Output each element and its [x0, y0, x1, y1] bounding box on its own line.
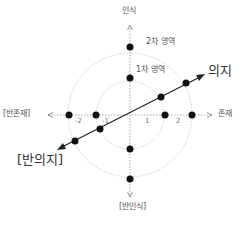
region-label-inner: 1차 영역 [136, 66, 165, 74]
axis-label-will: 의지 [208, 64, 232, 77]
dot-top-outer [127, 44, 134, 51]
tick-neg2: -2 [75, 118, 82, 125]
tick-pos1: 1 [145, 118, 149, 125]
dot-bottom-inner [127, 146, 134, 153]
axis-label-top: 인식 [122, 7, 136, 15]
dot-will-outer [183, 80, 190, 87]
arrow-antiwill-icon [57, 143, 66, 150]
dot-bottom-outer [127, 176, 134, 183]
dot-top-inner [127, 75, 134, 82]
axis-label-right: 존재 [218, 110, 232, 118]
dot-left-inner [93, 112, 100, 119]
arrow-will-icon [196, 74, 205, 81]
dot-left-outer [66, 112, 73, 119]
dot-will-inner [158, 94, 165, 101]
dot-antiwill-outer [72, 138, 79, 145]
axis-label-bottom: [반인식] [119, 203, 146, 211]
will-axis [60, 76, 202, 148]
tick-neg1: -1 [102, 118, 109, 125]
dot-right-inner [162, 112, 169, 119]
tick-pos2: 2 [176, 118, 180, 125]
concept-diagram [0, 0, 246, 230]
dot-antiwill-inner [97, 126, 104, 133]
axis-label-antiwill: [반의지] [17, 153, 63, 166]
region-label-outer: 2차 영역 [146, 38, 175, 46]
axis-label-left: [반존재] [3, 110, 30, 118]
dot-right-outer [189, 112, 196, 119]
